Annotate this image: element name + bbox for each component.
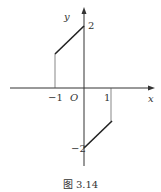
origin-label: O: [70, 92, 78, 103]
x-axis: [10, 86, 155, 91]
tick-y-pos2: 2: [88, 20, 94, 31]
segment-right: [84, 121, 112, 148]
figure-caption: 图 3.14: [0, 176, 161, 191]
tick-x-pos1: 1: [104, 92, 110, 103]
tick-x-neg1: −1: [48, 92, 63, 103]
x-axis-label: x: [148, 93, 154, 104]
y-axis-arrow-icon: [82, 7, 87, 14]
y-axis-label: y: [63, 11, 70, 22]
tick-y-neg2: −2: [71, 143, 86, 154]
function-graph: y x O −1 1 2 −2: [0, 0, 161, 192]
segment-left: [55, 26, 84, 54]
x-axis-arrow-icon: [148, 86, 155, 91]
